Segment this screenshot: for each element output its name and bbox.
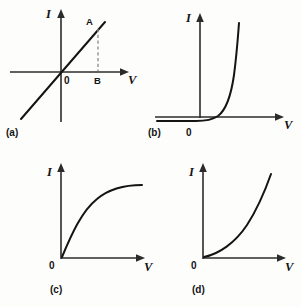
panel-b-plot bbox=[148, 0, 301, 150]
panel-c-y-axis-label: I bbox=[47, 166, 52, 179]
panel-d-plot bbox=[155, 155, 301, 307]
panel-d-y-axis-label: I bbox=[189, 166, 194, 179]
panel-b-caption: (b) bbox=[148, 128, 161, 138]
panel-c-y-axis-arrow-icon bbox=[57, 163, 65, 172]
panel-b-origin-label: 0 bbox=[186, 128, 192, 138]
panel-b-diode-curve bbox=[157, 23, 239, 121]
panel-c-origin-label: 0 bbox=[49, 261, 55, 271]
panel-d-caption: (d) bbox=[192, 285, 205, 295]
panel-b-y-axis-label: I bbox=[186, 12, 191, 25]
panel-c-x-axis-label: V bbox=[144, 261, 152, 274]
panel-d-superlinear-curve bbox=[204, 174, 271, 257]
panel-a-ohmic-line bbox=[21, 22, 105, 119]
panel-d-origin-label: 0 bbox=[191, 261, 197, 271]
panel-a-origin-label: 0 bbox=[64, 76, 70, 86]
panel-a-x-axis-label: V bbox=[128, 74, 136, 87]
panel-c-saturating-curve bbox=[62, 185, 142, 257]
panel-b-x-axis-arrow-icon bbox=[275, 113, 284, 121]
panel-c-plot bbox=[0, 155, 155, 307]
panel-c-caption: (c) bbox=[50, 285, 62, 295]
panel-a-caption: (a) bbox=[6, 128, 18, 138]
panel-a-point-a-label: A bbox=[86, 17, 93, 27]
panel-a-y-axis-arrow-icon bbox=[57, 9, 65, 18]
panel-b-y-axis-arrow-icon bbox=[196, 13, 204, 22]
panel-d-y-axis-arrow-icon bbox=[199, 163, 207, 172]
panel-b-x-axis-label: V bbox=[284, 119, 292, 132]
panel-a-point-b-label: B bbox=[94, 76, 101, 86]
panel-d-x-axis-label: V bbox=[285, 261, 293, 274]
figure-root: I V 0 A B (a) I V 0 (b) I V 0 (c) bbox=[0, 0, 301, 307]
panel-a-y-axis-label: I bbox=[46, 8, 51, 21]
